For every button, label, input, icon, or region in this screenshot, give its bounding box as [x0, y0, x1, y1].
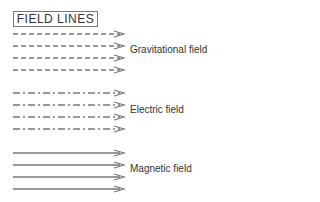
- label-electric-field: Electric field: [130, 104, 184, 115]
- label-magnetic-field: Magnetic field: [130, 163, 192, 174]
- label-gravitational-field: Gravitational field: [130, 44, 207, 55]
